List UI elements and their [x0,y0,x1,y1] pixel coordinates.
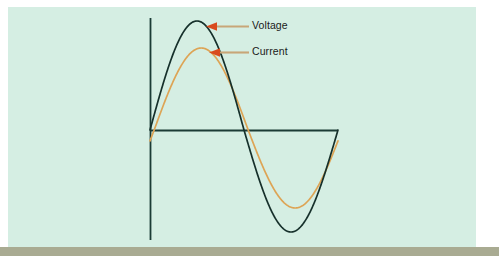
voltage-arrowhead [206,22,217,31]
voltage-label: Voltage [252,19,288,31]
waveform-plot [0,0,499,262]
current-label: Current [252,45,288,57]
voltage-annotation-arrow [206,22,249,31]
waveform-figure: Voltage Current [0,0,499,262]
